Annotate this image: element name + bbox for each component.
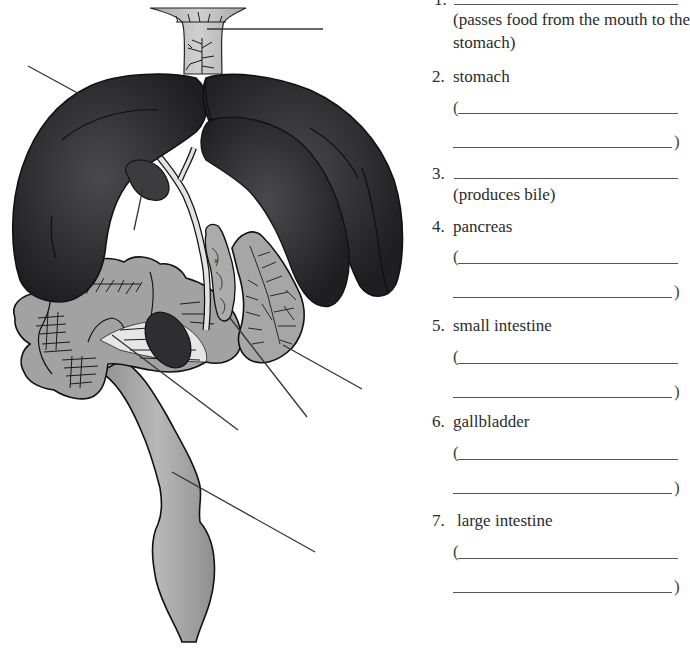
svg-text:x: x (214, 257, 218, 265)
close-paren: ) (674, 282, 680, 302)
item-number: 1. (434, 0, 447, 10)
item-number: 4. (432, 217, 445, 237)
close-paren: ) (674, 577, 680, 597)
close-paren: ) (674, 132, 680, 152)
answer-blank-4a[interactable] (458, 263, 678, 264)
large-intestine (100, 360, 214, 642)
item-number: 7. (432, 511, 445, 531)
item-name: pancreas (453, 217, 512, 237)
worksheet-labels: 1. (passes food from the mouth to the st… (420, 0, 681, 649)
item-name: gallbladder (453, 412, 529, 432)
answer-blank-7b[interactable] (453, 592, 672, 593)
answer-blank-3[interactable] (454, 178, 678, 179)
item-name: small intestine (453, 316, 552, 336)
leader-line-stomach (283, 345, 362, 389)
open-paren: ( (453, 247, 459, 267)
answer-blank-1[interactable] (454, 4, 678, 5)
answer-blank-5b[interactable] (453, 397, 672, 398)
close-paren: ) (674, 478, 680, 498)
open-paren: ( (453, 98, 459, 118)
item-number: 2. (432, 67, 445, 87)
item-hint-cont: stomach) (453, 33, 515, 53)
digestive-system-diagram: x (0, 0, 420, 649)
answer-blank-6b[interactable] (453, 493, 672, 494)
answer-blank-5a[interactable] (458, 363, 678, 364)
item-name: large intestine (457, 511, 553, 531)
answer-blank-4b[interactable] (453, 297, 672, 298)
close-paren: ) (674, 382, 680, 402)
open-paren: ( (453, 542, 459, 562)
open-paren: ( (453, 443, 459, 463)
answer-blank-6a[interactable] (458, 459, 678, 460)
item-hint: (passes food from the mouth to the (453, 10, 690, 30)
item-hint: (produces bile) (453, 185, 555, 205)
answer-blank-2b[interactable] (453, 147, 672, 148)
open-paren: ( (453, 347, 459, 367)
leader-line-liver (28, 66, 96, 103)
item-number: 6. (432, 412, 445, 432)
answer-blank-2a[interactable] (458, 113, 678, 114)
item-number: 3. (432, 164, 445, 184)
esophagus (150, 8, 246, 74)
item-number: 5. (432, 316, 445, 336)
answer-blank-7a[interactable] (458, 558, 678, 559)
item-name: stomach (453, 67, 510, 87)
